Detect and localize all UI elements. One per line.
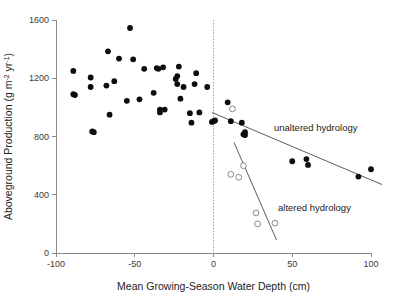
data-point-unaltered-hydrology-12 <box>124 98 130 104</box>
data-point-unaltered-hydrology-34 <box>196 110 202 116</box>
data-point-unaltered-hydrology-40 <box>228 118 234 124</box>
data-point-altered-hydrology-5 <box>255 221 261 227</box>
chart-canvas: 040080012001600-100-50050100 unaltered h… <box>0 0 394 301</box>
data-point-unaltered-hydrology-31 <box>189 120 195 126</box>
data-point-unaltered-hydrology-22 <box>160 64 166 70</box>
data-point-unaltered-hydrology-3 <box>88 75 94 81</box>
data-point-unaltered-hydrology-0 <box>70 68 76 74</box>
data-point-unaltered-hydrology-35 <box>204 84 210 90</box>
data-point-altered-hydrology-0 <box>230 106 236 112</box>
data-point-unaltered-hydrology-15 <box>137 96 143 102</box>
y-tick-label-0: 0 <box>44 248 49 258</box>
data-point-unaltered-hydrology-14 <box>130 56 136 62</box>
data-point-unaltered-hydrology-48 <box>356 174 362 180</box>
data-point-unaltered-hydrology-32 <box>192 81 198 87</box>
x-tick-label-50: 50 <box>287 259 297 269</box>
altered-hydrology-label: altered hydrology <box>278 202 351 213</box>
data-point-unaltered-hydrology-29 <box>181 84 187 90</box>
data-point-unaltered-hydrology-27 <box>176 64 182 70</box>
data-point-unaltered-hydrology-23 <box>162 107 168 113</box>
data-point-unaltered-hydrology-9 <box>107 112 113 118</box>
data-point-unaltered-hydrology-13 <box>127 25 133 31</box>
data-point-unaltered-hydrology-16 <box>141 66 147 72</box>
axes-group: 040080012001600-100-50050100 <box>29 15 379 269</box>
data-point-unaltered-hydrology-7 <box>104 83 110 89</box>
labels-group: unaltered hydrologyaltered hydrologyMean… <box>2 53 358 292</box>
scatter-plot-figure: 040080012001600-100-50050100 unaltered h… <box>0 0 394 301</box>
data-point-unaltered-hydrology-11 <box>116 56 122 62</box>
x-axis-title: Mean Growing-Season Water Depth (cm) <box>117 280 310 292</box>
data-point-unaltered-hydrology-38 <box>212 118 218 124</box>
y-tick-label-1600: 1600 <box>29 15 49 25</box>
data-point-unaltered-hydrology-41 <box>239 120 245 126</box>
data-point-unaltered-hydrology-45 <box>289 158 295 164</box>
data-point-unaltered-hydrology-4 <box>88 84 94 90</box>
x-tick-label-100: 100 <box>363 259 378 269</box>
data-point-unaltered-hydrology-8 <box>105 48 111 54</box>
data-point-unaltered-hydrology-10 <box>111 78 117 84</box>
y-axis-title: Aboveground Production (g m-2 yr-1) <box>2 53 14 220</box>
data-point-unaltered-hydrology-2 <box>72 92 78 98</box>
y-tick-label-800: 800 <box>34 132 49 142</box>
data-point-altered-hydrology-6 <box>272 220 278 226</box>
x-tick-label--100: -100 <box>47 259 65 269</box>
data-point-unaltered-hydrology-39 <box>225 99 231 105</box>
unaltered-hydrology-label: unaltered hydrology <box>274 122 358 133</box>
data-point-unaltered-hydrology-25 <box>174 81 180 87</box>
data-point-altered-hydrology-2 <box>236 174 242 180</box>
data-point-unaltered-hydrology-44 <box>242 129 248 135</box>
y-tick-label-400: 400 <box>34 190 49 200</box>
data-point-unaltered-hydrology-49 <box>368 166 374 172</box>
data-point-unaltered-hydrology-30 <box>187 110 193 116</box>
y-tick-label-1200: 1200 <box>29 73 49 83</box>
data-point-unaltered-hydrology-28 <box>178 96 184 102</box>
data-point-altered-hydrology-4 <box>253 210 259 216</box>
data-point-altered-hydrology-1 <box>228 171 234 177</box>
x-tick-label--50: -50 <box>128 259 141 269</box>
data-point-unaltered-hydrology-33 <box>193 70 199 76</box>
data-point-unaltered-hydrology-6 <box>91 129 97 135</box>
data-point-unaltered-hydrology-26 <box>174 73 180 79</box>
data-point-unaltered-hydrology-17 <box>151 90 157 96</box>
x-tick-label-0: 0 <box>211 259 216 269</box>
data-point-altered-hydrology-3 <box>241 163 247 169</box>
data-point-unaltered-hydrology-47 <box>305 162 311 168</box>
data-point-unaltered-hydrology-46 <box>304 156 310 162</box>
